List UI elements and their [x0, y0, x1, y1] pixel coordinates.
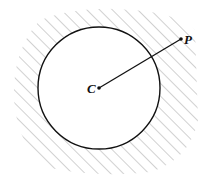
point-label: P — [184, 32, 193, 47]
hatched-region — [14, 9, 198, 175]
center-point — [97, 86, 101, 90]
circle-diagram: C P — [0, 0, 202, 179]
point-p — [179, 37, 183, 41]
center-label: C — [87, 81, 96, 96]
